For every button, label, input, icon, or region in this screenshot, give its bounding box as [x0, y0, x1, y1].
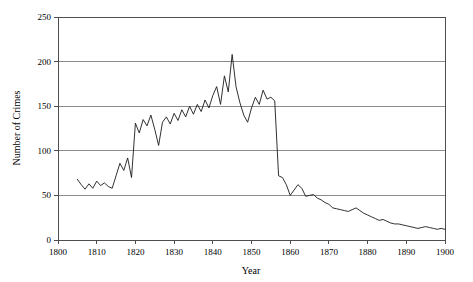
x-tick-label-group: 1800181018201830184018501860187018801890…	[49, 247, 455, 257]
y-tick-label: 250	[38, 12, 52, 22]
plot-frame	[58, 17, 445, 240]
x-tick-label: 1810	[88, 247, 107, 257]
y-tick-label: 50	[42, 190, 52, 200]
crime-series-line	[77, 54, 445, 229]
crime-line-chart: 050100150200250 180018101820183018401850…	[0, 0, 473, 282]
y-tick-label: 200	[38, 57, 52, 67]
y-axis-title: Number of Crimes	[11, 90, 22, 165]
x-tick-label: 1820	[126, 247, 145, 257]
chart-canvas: 050100150200250 180018101820183018401850…	[0, 0, 473, 282]
x-tick-label: 1830	[165, 247, 184, 257]
y-tick-label: 100	[38, 146, 52, 156]
x-tick-label: 1850	[243, 247, 262, 257]
x-tick-label: 1880	[359, 247, 378, 257]
x-tick-label: 1860	[281, 247, 300, 257]
x-tick-label: 1900	[436, 247, 455, 257]
x-tick-label: 1800	[49, 247, 68, 257]
x-tick-group	[58, 240, 445, 244]
x-axis-title: Year	[242, 265, 261, 276]
x-tick-label: 1840	[204, 247, 223, 257]
y-tick-label-group: 050100150200250	[38, 12, 52, 245]
y-tick-label: 0	[47, 235, 52, 245]
y-tick-group	[54, 17, 58, 240]
y-tick-label: 150	[38, 101, 52, 111]
x-tick-label: 1870	[320, 247, 339, 257]
x-tick-label: 1890	[397, 247, 416, 257]
